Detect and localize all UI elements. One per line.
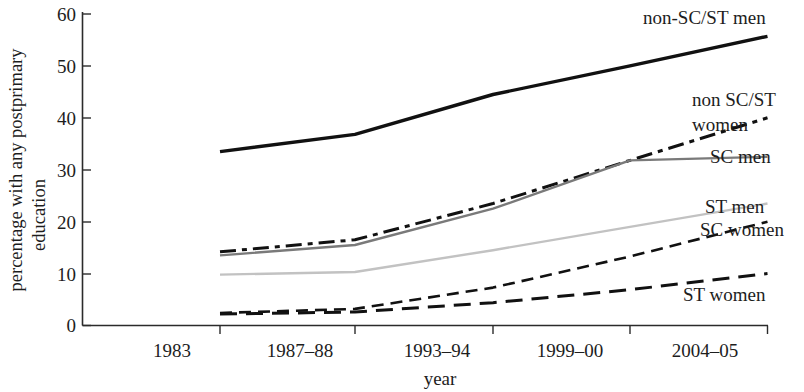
x-axis-title: year bbox=[424, 368, 457, 389]
y-tick-label-10: 10 bbox=[57, 264, 76, 285]
series-label-st-men: ST men bbox=[705, 196, 765, 217]
line-chart: 60 50 40 30 20 10 0 1983 1987–88 1993–94… bbox=[0, 0, 804, 392]
chart-container: 60 50 40 30 20 10 0 1983 1987–88 1993–94… bbox=[0, 0, 804, 392]
x-tick-label-1993-94: 1993–94 bbox=[404, 340, 471, 361]
x-tick-label-1999-00: 1999–00 bbox=[537, 340, 604, 361]
series-label-non-sc-st-men: non-SC/ST men bbox=[643, 7, 766, 28]
series-label-non-sc-st-women-line1: non SC/ST bbox=[692, 89, 776, 110]
y-tick-label-50: 50 bbox=[57, 56, 76, 77]
series-group bbox=[220, 36, 768, 314]
y-tick-label-30: 30 bbox=[57, 160, 76, 181]
series-line-sc-men bbox=[220, 157, 768, 256]
series-line-non-sc-st-men bbox=[220, 36, 768, 151]
series-line-st-men bbox=[220, 204, 768, 275]
series-label-non-sc-st-women-line2: women bbox=[692, 114, 748, 135]
x-tick-label-1983: 1983 bbox=[153, 340, 191, 361]
y-tick-label-0: 0 bbox=[67, 315, 77, 336]
y-axis-title-line2: education bbox=[29, 179, 49, 251]
y-tick-label-60: 60 bbox=[57, 4, 76, 25]
series-label-sc-men: SC men bbox=[710, 146, 771, 167]
series-label-sc-women: SC women bbox=[700, 219, 784, 240]
series-label-st-women: ST women bbox=[683, 284, 766, 305]
y-axis-title-line1: percentage with any postprimary bbox=[6, 48, 26, 292]
series-line-non-sc-st-women bbox=[220, 118, 768, 252]
y-ticks bbox=[83, 14, 92, 326]
x-ticks bbox=[220, 326, 768, 335]
y-tick-label-20: 20 bbox=[57, 212, 76, 233]
x-tick-label-1987-88: 1987–88 bbox=[267, 340, 334, 361]
y-tick-label-40: 40 bbox=[57, 108, 76, 129]
x-tick-label-2004-05: 2004–05 bbox=[672, 340, 739, 361]
